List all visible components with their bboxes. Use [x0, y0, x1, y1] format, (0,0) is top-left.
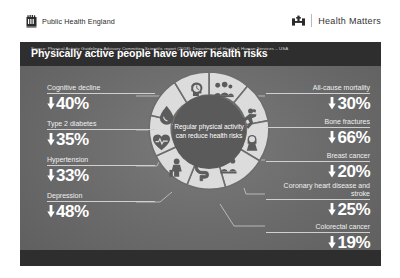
stat-value-row: 40% — [47, 94, 155, 113]
health-matters-logo: Health Matters — [292, 14, 381, 27]
down-arrow-icon — [328, 97, 336, 110]
down-arrow-icon — [328, 203, 336, 216]
down-arrow-icon — [47, 205, 55, 218]
stat-value-row: 33% — [47, 166, 155, 185]
stat-label: All-cause mortality — [266, 84, 370, 92]
stat-label: Cognitive decline — [47, 84, 155, 92]
stat-depression: Depression 48% — [47, 192, 155, 221]
stat-label: Depression — [47, 192, 155, 200]
logo-divider — [311, 14, 312, 27]
poster-source: Source: Physical Activity Guidelines Adv… — [31, 46, 288, 51]
stat-cognitive-decline: Cognitive decline 40% — [47, 84, 155, 113]
health-matters-icon — [292, 15, 305, 26]
stat-coronary-heart-disease-and-stroke: Coronary heart disease and stroke 25% — [266, 182, 370, 219]
stat-value: 40% — [56, 94, 89, 113]
stat-type-2-diabetes: Type 2 diabetes 35% — [47, 120, 155, 149]
down-arrow-icon — [328, 165, 336, 178]
stat-value: 35% — [56, 130, 89, 149]
down-arrow-icon — [47, 133, 55, 146]
stat-breast-cancer: Breast cancer 20% — [266, 152, 370, 181]
poster-footer-band — [20, 250, 381, 266]
stat-value-row: 48% — [47, 202, 155, 221]
stat-value-row: 35% — [47, 130, 155, 149]
phe-crest-icon — [26, 15, 37, 28]
stat-value-row: 30% — [266, 94, 370, 113]
page-header: Public Health England Health Matters — [0, 0, 400, 42]
stat-value: 20% — [337, 162, 370, 181]
stat-all-cause-mortality: All-cause mortality 30% — [266, 84, 370, 113]
infographic-panel: Physically active people have lower heal… — [20, 42, 381, 266]
stat-label: Coronary heart disease and stroke — [266, 182, 370, 198]
health-matters-text: Health Matters — [318, 16, 381, 26]
down-arrow-icon — [47, 169, 55, 182]
stat-value: 33% — [56, 166, 89, 185]
risk-reduction-wheel: Regular physical activity can reduce hea… — [147, 70, 271, 194]
stat-label: Bone fractures — [266, 118, 370, 126]
down-arrow-icon — [47, 97, 55, 110]
stat-value: 30% — [337, 94, 370, 113]
down-arrow-icon — [328, 236, 336, 249]
down-arrow-icon — [328, 131, 336, 144]
wheel-hub-text: Regular physical activity can reduce hea… — [173, 123, 245, 140]
woman-icon — [247, 135, 258, 151]
stat-label: Breast cancer — [266, 152, 370, 160]
stat-value-row: 20% — [266, 162, 370, 181]
stat-hypertension: Hypertension 33% — [47, 156, 155, 185]
stat-colorectal-cancer: Colorectal cancer 19% — [266, 223, 370, 252]
phe-logo-text: Public Health England — [42, 17, 115, 26]
stat-value: 25% — [337, 200, 370, 219]
stat-label: Type 2 diabetes — [47, 120, 155, 128]
stat-label: Colorectal cancer — [266, 223, 370, 231]
stat-value: 48% — [56, 202, 89, 221]
stat-value-row: 25% — [266, 200, 370, 219]
stat-value-row: 66% — [266, 128, 370, 147]
stat-value: 66% — [337, 128, 370, 147]
public-health-england-logo: Public Health England — [26, 15, 115, 28]
stat-bone-fractures: Bone fractures 66% — [266, 118, 370, 147]
stat-label: Hypertension — [47, 156, 155, 164]
